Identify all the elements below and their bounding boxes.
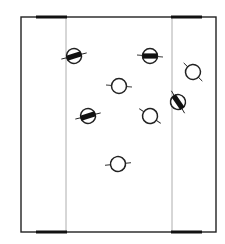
open-circle-icon	[135, 103, 165, 129]
court-diagram	[0, 0, 225, 244]
filled-circle-icon	[164, 87, 191, 117]
dividers	[66, 17, 172, 232]
filled-circle-icon	[73, 105, 102, 127]
symbols	[59, 45, 207, 174]
open-circle-icon	[104, 154, 132, 173]
frame	[21, 17, 216, 232]
thick-bars	[36, 17, 202, 232]
frame-rect	[21, 17, 216, 232]
filled-circle-icon	[59, 45, 88, 67]
open-circle-icon	[106, 79, 132, 94]
open-circle-icon	[178, 58, 208, 86]
filled-circle-icon	[137, 49, 163, 64]
